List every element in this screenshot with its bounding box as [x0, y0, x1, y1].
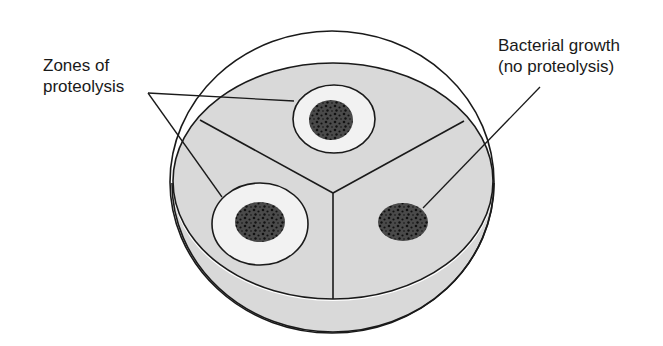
label-line: Zones of	[43, 55, 124, 76]
left-colony	[212, 183, 308, 265]
label-line: proteolysis	[43, 76, 124, 97]
right-colony	[378, 203, 428, 241]
colony	[235, 202, 285, 242]
zones-of-proteolysis-label: Zones of proteolysis	[43, 55, 124, 97]
colony	[378, 203, 428, 241]
top-colony	[293, 85, 375, 153]
label-line: Bacterial growth	[498, 35, 620, 56]
bacterial-growth-label: Bacterial growth (no proteolysis)	[498, 35, 620, 77]
colony	[309, 100, 353, 140]
label-line: (no proteolysis)	[498, 56, 620, 77]
